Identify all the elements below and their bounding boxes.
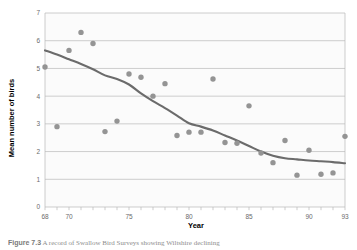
y-tick-label: 0: [36, 203, 40, 210]
data-point: [294, 172, 299, 177]
x-tick-label: 68: [41, 213, 49, 220]
data-point: [246, 103, 251, 108]
data-point: [42, 64, 47, 69]
data-point: [126, 71, 131, 76]
y-tick-label: 4: [36, 93, 40, 100]
data-point: [234, 141, 239, 146]
data-point: [162, 81, 167, 86]
data-point: [54, 124, 59, 129]
x-tick-label: 85: [245, 213, 253, 220]
scatter-chart: 01234567 68707580859093 Mean number of b…: [0, 0, 357, 232]
data-point: [114, 118, 119, 123]
y-axis-title: Mean number of birds: [7, 79, 16, 157]
plot-background: [45, 13, 345, 207]
data-point: [282, 138, 287, 143]
x-tick-label: 80: [185, 213, 193, 220]
y-tick-label: 5: [36, 65, 40, 72]
data-point: [222, 140, 227, 145]
data-point: [174, 133, 179, 138]
figure-container: 01234567 68707580859093 Mean number of b…: [0, 0, 357, 250]
y-tick-label: 7: [36, 9, 40, 16]
y-tick-label: 6: [36, 37, 40, 44]
data-point: [66, 48, 71, 53]
x-tick-label: 70: [65, 213, 73, 220]
figure-caption: Figure 7.3 A record of Swallow Bird Surv…: [8, 238, 357, 250]
x-tick-label: 93: [341, 213, 349, 220]
y-tick-label: 2: [36, 148, 40, 155]
data-point: [186, 129, 191, 134]
data-point: [210, 76, 215, 81]
data-point: [198, 129, 203, 134]
data-point: [318, 172, 323, 177]
y-axis-tick-labels: 01234567: [36, 9, 40, 210]
figure-caption-label: Figure 7.3: [8, 239, 41, 246]
chart-area: 01234567 68707580859093 Mean number of b…: [0, 0, 357, 232]
data-point: [78, 30, 83, 35]
data-point: [90, 41, 95, 46]
data-point: [342, 134, 347, 139]
data-point: [138, 75, 143, 80]
x-axis-tick-labels: 68707580859093: [41, 207, 349, 220]
data-point: [102, 129, 107, 134]
figure-caption-text: A record of Swallow Bird Surveys showing…: [42, 239, 219, 247]
y-tick-label: 3: [36, 120, 40, 127]
data-point: [150, 93, 155, 98]
x-tick-label: 90: [305, 213, 313, 220]
data-point: [330, 170, 335, 175]
data-point: [270, 160, 275, 165]
x-tick-label: 75: [125, 213, 133, 220]
x-axis-title: Year: [188, 221, 204, 230]
y-tick-label: 1: [36, 176, 40, 183]
data-point: [306, 147, 311, 152]
data-point: [258, 150, 263, 155]
